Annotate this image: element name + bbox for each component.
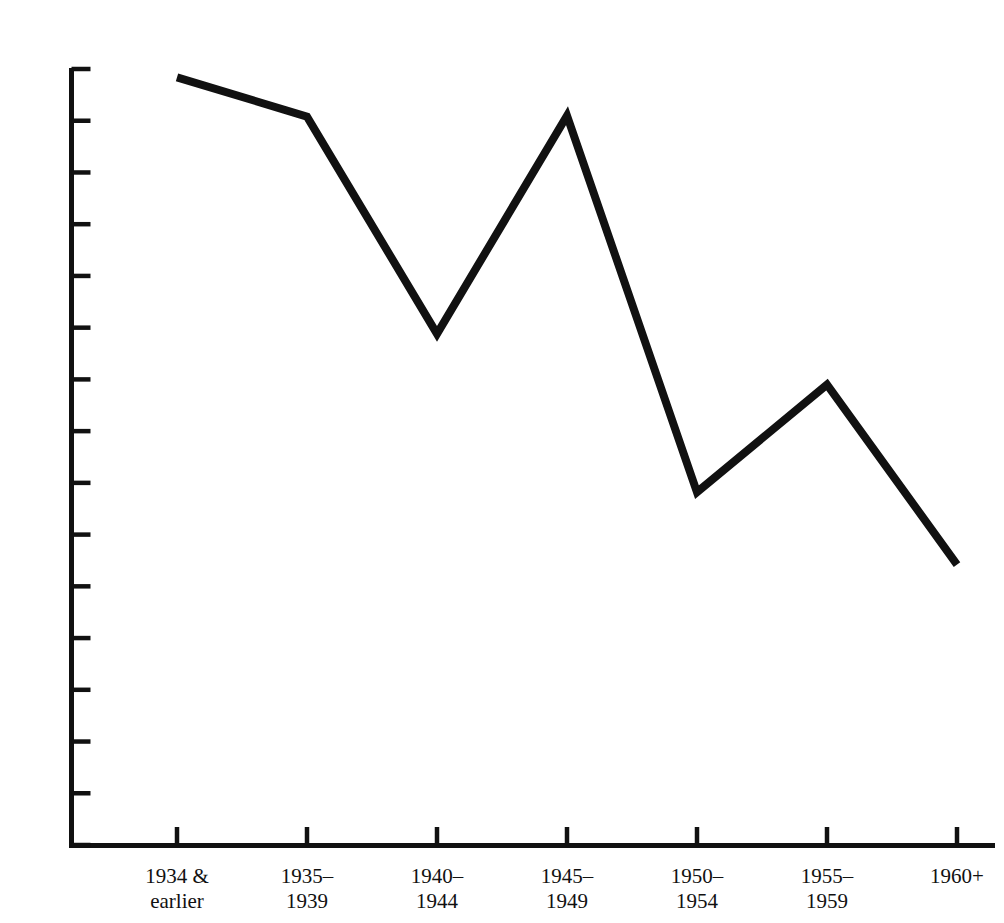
x-tick-label: 1935– 1939 bbox=[232, 864, 382, 914]
x-tick-label: 1955– 1959 bbox=[752, 864, 902, 914]
x-tick-label: 1934 & earlier bbox=[102, 864, 252, 914]
x-tick-label: 1940– 1944 bbox=[362, 864, 512, 914]
x-tick-label: 1950– 1954 bbox=[622, 864, 772, 914]
x-tick-label: 1960+ bbox=[882, 864, 1004, 889]
x-axis-tick-labels: 1934 & earlier1935– 19391940– 19441945– … bbox=[0, 0, 1004, 923]
line-chart: 051015202530354045505560657075% 1934 & e… bbox=[0, 0, 1004, 923]
x-tick-label: 1945– 1949 bbox=[492, 864, 642, 914]
